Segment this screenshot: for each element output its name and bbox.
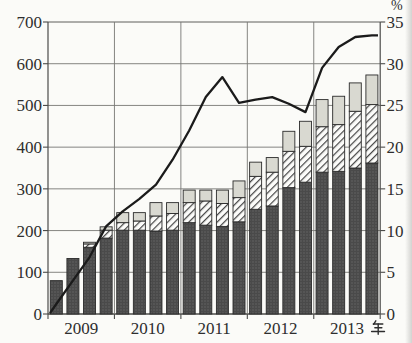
- left-axis-tick-label: 600: [17, 55, 43, 74]
- bars-group: [50, 75, 378, 314]
- bar-segment-hatched: [250, 176, 262, 209]
- bar-stack: [133, 213, 145, 314]
- left-axis-tick-label: 200: [17, 222, 43, 241]
- year-unit-label: [372, 321, 385, 334]
- bar-stack: [349, 83, 361, 314]
- bar-segment-gray: [266, 158, 278, 173]
- bar-segment-gray: [233, 181, 245, 198]
- bar-stack: [200, 190, 212, 314]
- bar-segment-dark: [117, 230, 129, 314]
- bar-stack: [299, 121, 311, 314]
- bar-segment-hatched: [316, 127, 328, 172]
- left-axis-tick-label: 500: [17, 96, 43, 115]
- bar-stack: [216, 190, 228, 314]
- year-label: 2010: [131, 319, 165, 338]
- bar-segment-hatched: [349, 111, 361, 168]
- bar-segment-dark: [233, 222, 245, 314]
- right-axis-tick-label: 0: [387, 305, 396, 324]
- bar-segment-gray: [283, 131, 295, 151]
- bar-stack: [167, 203, 179, 314]
- bar-segment-hatched: [200, 201, 212, 225]
- bar-segment-dark: [316, 172, 328, 314]
- bar-segment-dark: [200, 225, 212, 314]
- left-axis-tick-label: 0: [34, 305, 43, 324]
- right-axis-tick-label: 5: [387, 263, 396, 282]
- bar-segment-gray: [200, 190, 212, 201]
- bar-segment-hatched: [183, 203, 195, 223]
- bar-segment-dark: [167, 230, 179, 314]
- bar-segment-gray: [183, 190, 195, 203]
- right-axis-unit-label: %: [391, 0, 403, 13]
- bar-segment-gray: [133, 213, 145, 221]
- bar-stack: [250, 162, 262, 314]
- bar-segment-dark: [266, 206, 278, 314]
- bar-segment-hatched: [117, 223, 129, 231]
- bar-segment-hatched: [150, 216, 162, 231]
- bar-segment-dark: [133, 230, 145, 314]
- right-axis-tick-label: 10: [387, 222, 404, 241]
- bar-segment-dark: [250, 209, 262, 314]
- bar-segment-dark: [349, 168, 361, 314]
- bar-stack: [283, 131, 295, 314]
- bar-stack: [150, 203, 162, 314]
- bar-segment-hatched: [366, 105, 378, 163]
- right-axis-tick-label: 20: [387, 138, 404, 157]
- bar-segment-hatched: [233, 198, 245, 222]
- bar-segment-hatched: [133, 221, 145, 230]
- x-axis-labels: 20092010201120122013: [64, 319, 364, 338]
- bar-segment-dark: [100, 238, 112, 314]
- gridlines: [48, 22, 380, 314]
- year-label: 2011: [197, 319, 230, 338]
- right-axis-labels: 05101520253035%: [387, 0, 404, 324]
- bar-segment-hatched: [299, 146, 311, 182]
- right-axis-tick-label: 15: [387, 180, 404, 199]
- bar-segment-gray: [333, 96, 345, 124]
- bar-segment-gray: [366, 75, 378, 105]
- left-axis-tick-label: 100: [17, 263, 43, 282]
- bar-segment-gray: [299, 121, 311, 146]
- left-axis-tick-label: 400: [17, 138, 43, 157]
- bar-segment-dark: [183, 223, 195, 314]
- bar-segment-hatched: [216, 203, 228, 226]
- bar-stack: [366, 75, 378, 314]
- bar-stack: [84, 242, 96, 314]
- bar-segment-dark: [366, 163, 378, 314]
- bar-segment-dark: [216, 226, 228, 314]
- bar-stack: [333, 96, 345, 314]
- bar-stack: [117, 213, 129, 314]
- year-label: 2012: [264, 319, 298, 338]
- bar-segment-dark: [283, 188, 295, 314]
- bar-segment-hatched: [167, 213, 179, 230]
- bar-stack: [100, 227, 112, 314]
- right-axis-tick-label: 25: [387, 96, 404, 115]
- right-axis-tick-label: 35: [387, 13, 404, 32]
- bar-stack: [183, 190, 195, 314]
- bar-stack: [266, 158, 278, 314]
- bar-segment-gray: [150, 203, 162, 216]
- bar-segment-gray: [349, 83, 361, 111]
- percentage-trend-line: [50, 35, 378, 313]
- bar-segment-gray: [84, 242, 96, 244]
- bar-segment-gray: [216, 190, 228, 203]
- scanned-statistics-chart: 010020030040050060070005101520253035%200…: [0, 0, 412, 343]
- chart-canvas: 010020030040050060070005101520253035%200…: [0, 0, 412, 343]
- bar-stack: [233, 181, 245, 314]
- bar-segment-hatched: [84, 244, 96, 247]
- bar-stack: [316, 100, 328, 314]
- bar-segment-hatched: [266, 172, 278, 206]
- bar-segment-dark: [299, 182, 311, 314]
- right-axis-tick-label: 30: [387, 55, 404, 74]
- bar-segment-gray: [316, 100, 328, 127]
- bar-segment-gray: [167, 203, 179, 214]
- left-axis-tick-label: 700: [17, 13, 43, 32]
- bar-segment-gray: [250, 162, 262, 176]
- bar-segment-dark: [150, 231, 162, 314]
- left-axis-tick-label: 300: [17, 180, 43, 199]
- year-label: 2009: [64, 319, 98, 338]
- year-label: 2013: [330, 319, 364, 338]
- left-axis-labels: 0100200300400500600700: [17, 13, 43, 324]
- bar-segment-hatched: [333, 125, 345, 172]
- bar-segment-dark: [333, 171, 345, 314]
- bar-segment-hatched: [283, 151, 295, 187]
